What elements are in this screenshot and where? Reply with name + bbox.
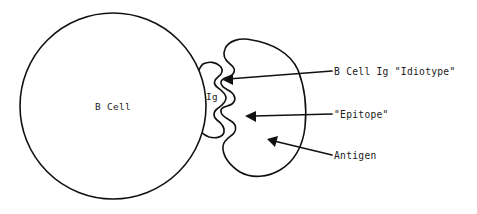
ig-label: Ig [206,91,218,102]
callout-label-antigen: Antigen [334,150,377,161]
diagram-svg: B Cell Ig B Cell Ig "Idiotype" "Epitope"… [0,0,477,214]
b-cell-label: B Cell [95,101,131,112]
antigen-shape [221,39,306,176]
diagram-canvas: B Cell Ig B Cell Ig "Idiotype" "Epitope"… [0,0,477,214]
callout-label-idiotype: B Cell Ig "Idiotype" [334,66,456,77]
callout-label-epitope: "Epitope" [334,109,389,120]
